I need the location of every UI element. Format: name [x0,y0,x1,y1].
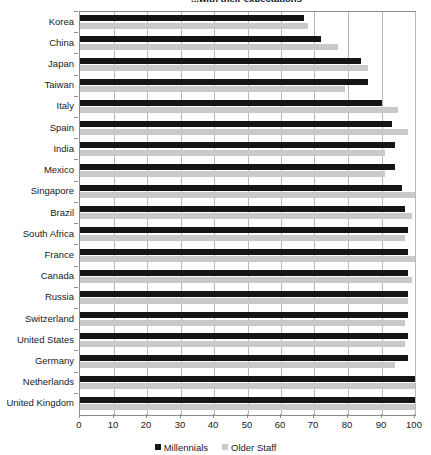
bar-older-staff [80,235,405,241]
y-axis-label-south-africa: South Africa [0,228,74,239]
plot-inner [80,12,415,415]
bar-millennials [80,291,408,297]
bar-millennials [80,164,395,170]
bar-older-staff [80,404,415,410]
y-axis-label-russia: Russia [0,291,74,302]
y-axis-label-canada: Canada [0,270,74,281]
chart-legend: MillennialsOlder Staff [0,440,431,454]
bar-older-staff [80,86,345,92]
bar-group [80,182,415,203]
bar-millennials [80,36,321,42]
y-axis-label-spain: Spain [0,122,74,133]
bar-group [80,76,415,97]
legend-label: Older Staff [231,442,276,453]
bar-group [80,160,415,181]
bar-older-staff [80,44,338,50]
x-axis-label-50: 50 [232,419,262,430]
bar-group [80,224,415,245]
y-axis-label-brazil: Brazil [0,207,74,218]
bar-millennials [80,249,408,255]
legend-swatch-icon [155,444,161,450]
y-axis-label-taiwan: Taiwan [0,79,74,90]
y-axis-label-china: China [0,37,74,48]
bar-group [80,351,415,372]
legend-item-millennials[interactable]: Millennials [155,442,208,453]
bar-group [80,12,415,33]
x-axis-label-0: 0 [64,419,94,430]
x-axis-label-70: 70 [298,419,328,430]
x-axis-tick-40 [213,414,214,418]
y-axis-label-italy: Italy [0,100,74,111]
bar-older-staff [80,213,412,219]
gridline-100 [415,12,416,415]
bar-group [80,288,415,309]
bar-group [80,203,415,224]
bar-group [80,373,415,394]
bar-millennials [80,376,415,382]
y-axis-label-mexico: Mexico [0,164,74,175]
y-axis-tick [74,372,78,373]
bar-millennials [80,142,395,148]
y-axis-label-netherlands: Netherlands [0,376,74,387]
y-axis-labels: KoreaChinaJapanTaiwanItalySpainIndiaMexi… [0,11,74,414]
y-axis-label-singapore: Singapore [0,185,74,196]
bar-millennials [80,79,368,85]
bar-older-staff [80,320,405,326]
bar-millennials [80,15,304,21]
bar-millennials [80,227,408,233]
y-axis-tick [74,32,78,33]
bar-group [80,309,415,330]
bar-millennials [80,333,408,339]
x-axis-tick-50 [247,414,248,418]
bar-group [80,245,415,266]
y-axis-tick [74,266,78,267]
x-axis-label-20: 20 [131,419,161,430]
x-axis-tick-80 [347,414,348,418]
bar-older-staff [80,192,415,198]
bar-millennials [80,206,405,212]
y-axis-tick [74,11,78,12]
legend-item-older-staff[interactable]: Older Staff [222,442,276,453]
y-axis-tick [74,53,78,54]
y-axis-tick [74,350,78,351]
y-axis-tick [74,223,78,224]
bar-older-staff [80,256,415,262]
x-axis-label-40: 40 [198,419,228,430]
bar-millennials [80,312,408,318]
y-axis-tick [74,329,78,330]
x-axis-tick-60 [280,414,281,418]
y-axis-tick [74,138,78,139]
bar-older-staff [80,362,395,368]
bar-millennials [80,58,361,64]
bar-older-staff [80,298,408,304]
y-axis-label-japan: Japan [0,58,74,69]
bar-older-staff [80,277,412,283]
x-axis-tick-70 [313,414,314,418]
y-axis-tick [74,244,78,245]
x-axis-label-10: 10 [98,419,128,430]
x-axis-label-60: 60 [265,419,295,430]
bar-older-staff [80,107,398,113]
x-axis-tick-100 [414,414,415,418]
bar-millennials [80,185,402,191]
y-axis-tick [74,287,78,288]
y-axis-label-germany: Germany [0,355,74,366]
bar-older-staff [80,171,385,177]
y-axis-label-korea: Korea [0,16,74,27]
y-axis-label-switzerland: Switzerland [0,313,74,324]
plot-area [79,11,416,416]
bar-older-staff [80,65,368,71]
x-axis: 0102030405060708090100 [79,414,414,436]
bar-older-staff [80,23,308,29]
bar-older-staff [80,341,405,347]
x-axis-label-90: 90 [366,419,396,430]
y-axis-label-united-kingdom: United Kingdom [0,397,74,408]
y-axis-tick [74,393,78,394]
y-axis-tick [74,75,78,76]
y-axis-label-india: India [0,143,74,154]
bar-millennials [80,100,382,106]
bar-group [80,54,415,75]
bar-group [80,139,415,160]
x-axis-tick-20 [146,414,147,418]
y-axis-tick [74,308,78,309]
